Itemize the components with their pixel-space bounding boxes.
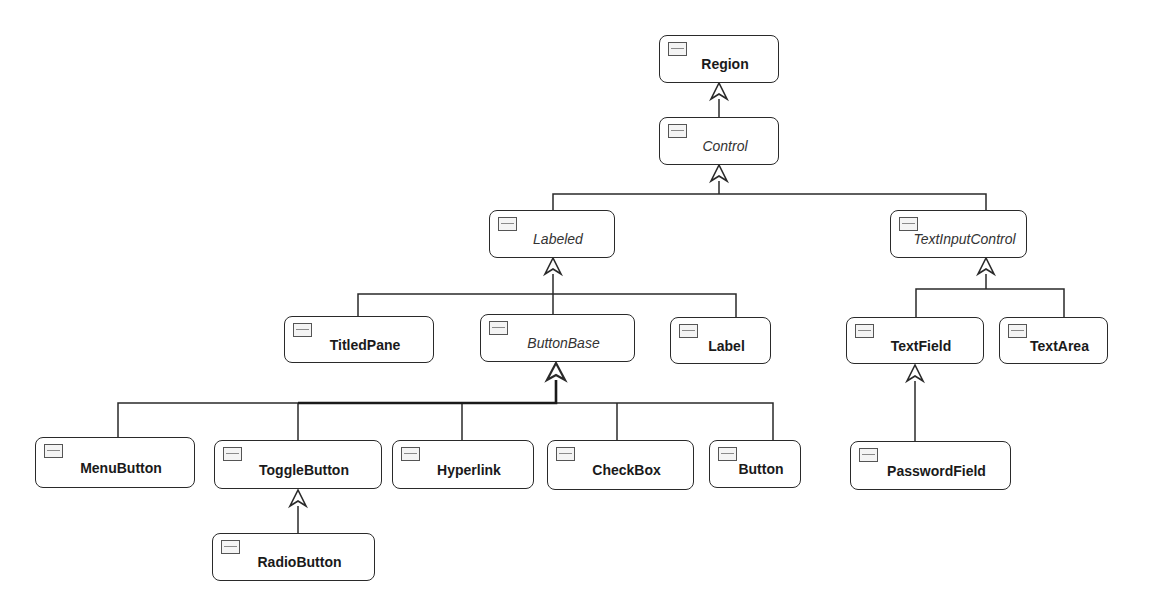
class-icon — [401, 447, 420, 461]
class-name: PasswordField — [887, 463, 986, 479]
class-name: Region — [701, 56, 748, 72]
class-textinputcontrol[interactable]: TextInputControl — [890, 210, 1027, 258]
class-name: Button — [738, 461, 783, 477]
class-icon — [679, 324, 698, 338]
class-name: TitledPane — [330, 337, 401, 353]
class-radiobutton[interactable]: RadioButton — [212, 533, 375, 581]
class-icon — [855, 324, 874, 338]
uml-class-diagram: Region Control Labeled TextInputControl … — [0, 0, 1168, 616]
class-buttonbase[interactable]: ButtonBase — [480, 314, 635, 362]
class-passwordfield[interactable]: PasswordField — [850, 441, 1011, 490]
arrowhead-labeled — [545, 258, 561, 274]
class-icon — [859, 448, 878, 462]
class-icon — [899, 217, 918, 231]
class-name: ButtonBase — [527, 335, 599, 351]
class-name: TextInputControl — [913, 231, 1015, 247]
class-control[interactable]: Control — [659, 117, 779, 165]
class-togglebutton[interactable]: ToggleButton — [214, 440, 382, 489]
class-icon — [221, 540, 240, 554]
class-textarea[interactable]: TextArea — [999, 317, 1108, 364]
class-hyperlink[interactable]: Hyperlink — [392, 440, 534, 489]
class-name: Hyperlink — [437, 462, 501, 478]
class-name: TextField — [891, 338, 951, 354]
class-name: ToggleButton — [259, 462, 349, 478]
class-name: Control — [702, 138, 747, 154]
class-icon — [489, 321, 508, 335]
class-name: RadioButton — [258, 554, 342, 570]
class-name: CheckBox — [592, 462, 660, 478]
class-icon — [1008, 324, 1027, 338]
class-icon — [498, 217, 517, 231]
class-name: Labeled — [533, 231, 583, 247]
class-label[interactable]: Label — [670, 317, 771, 364]
class-icon — [668, 42, 687, 56]
class-icon — [556, 447, 575, 461]
class-icon — [293, 323, 312, 337]
inheritance-connectors — [0, 0, 1168, 616]
arrowhead-control — [711, 165, 727, 181]
class-name: Label — [708, 338, 745, 354]
class-region[interactable]: Region — [659, 35, 779, 83]
arrowhead-textinputcontrol — [978, 258, 994, 274]
class-titledpane[interactable]: TitledPane — [284, 316, 434, 363]
class-icon — [44, 444, 63, 458]
class-icon — [718, 447, 737, 461]
class-textfield[interactable]: TextField — [846, 317, 984, 364]
arrowhead-buttonbase — [547, 363, 565, 380]
class-icon — [223, 447, 242, 461]
class-name: MenuButton — [80, 460, 162, 476]
class-icon — [668, 124, 687, 138]
class-checkbox[interactable]: CheckBox — [547, 440, 694, 490]
arrowhead-togglebutton — [290, 490, 306, 506]
class-labeled[interactable]: Labeled — [489, 210, 615, 258]
class-button[interactable]: Button — [709, 440, 801, 488]
arrowhead-region — [711, 83, 727, 99]
class-menubutton[interactable]: MenuButton — [35, 437, 195, 488]
class-name: TextArea — [1030, 338, 1089, 354]
arrowhead-textfield — [907, 365, 923, 381]
